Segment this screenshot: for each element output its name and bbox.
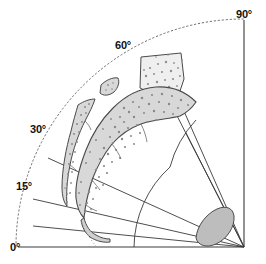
angle-label-15: 15°: [16, 180, 32, 192]
angle-label-0: 0°: [10, 241, 20, 253]
angle-label-60: 60°: [115, 39, 131, 51]
polar-sector-figure: 0° 15° 30° 60° 90°: [0, 0, 266, 264]
diagram-canvas: 0° 15° 30° 60° 90°: [0, 0, 266, 264]
angle-label-30: 30°: [30, 123, 46, 135]
angle-label-90: 90°: [236, 8, 252, 20]
